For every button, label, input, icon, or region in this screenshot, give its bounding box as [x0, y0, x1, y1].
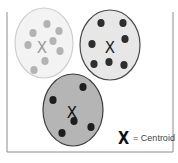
data-point: [24, 41, 31, 49]
centroid-symbol: X: [118, 130, 129, 147]
centroid-marker: X: [37, 39, 47, 57]
cluster-2: X: [80, 10, 140, 80]
data-point: [49, 96, 56, 104]
data-point: [121, 35, 128, 43]
cluster-3: X: [43, 74, 103, 146]
data-point: [105, 58, 112, 66]
data-point: [56, 47, 63, 55]
centroid-marker: X: [105, 39, 115, 57]
data-point: [41, 57, 48, 65]
data-point: [97, 19, 104, 27]
data-point: [55, 27, 62, 35]
data-point: [29, 29, 36, 37]
data-point: [49, 37, 56, 45]
data-point: [58, 129, 65, 137]
cluster-1: X: [15, 8, 73, 78]
data-point: [119, 19, 126, 27]
legend-label: = Centroid: [133, 134, 175, 143]
data-point: [90, 60, 97, 68]
data-point: [43, 20, 50, 28]
centroid-marker: X: [67, 104, 77, 122]
data-point: [30, 66, 37, 74]
data-point: [87, 123, 94, 131]
data-point: [88, 40, 95, 48]
data-point: [120, 61, 127, 69]
legend: X = Centroid: [117, 130, 175, 147]
data-point: [79, 83, 86, 91]
